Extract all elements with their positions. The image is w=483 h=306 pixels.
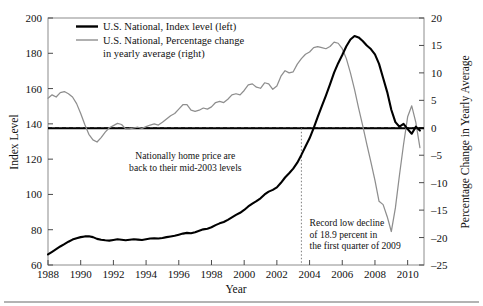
x-tick-label: 1998 xyxy=(200,268,223,280)
y-tick-label-left: 180 xyxy=(26,47,43,59)
y-tick-label-right: –15 xyxy=(430,204,448,216)
y-tick-label-right: –5 xyxy=(430,149,443,161)
x-axis-ticks: 1988199019921994199619982000200220042006… xyxy=(37,260,419,280)
series-percentage-change xyxy=(48,42,420,231)
y-tick-label-right: –20 xyxy=(430,232,448,244)
x-axis-title: Year xyxy=(225,283,246,295)
mid-2003-annotation-line: Nationally home price are xyxy=(135,150,235,161)
y-tick-label-right: 20 xyxy=(431,12,443,24)
figure-container: 6080100120140160180200 –25–20–15–10–5051… xyxy=(0,0,483,306)
y-tick-label-left: 120 xyxy=(26,153,43,165)
x-tick-label: 2006 xyxy=(331,268,354,280)
x-tick-label: 2008 xyxy=(364,268,387,280)
x-tick-label: 2002 xyxy=(266,268,288,280)
legend-label: U.S. National, Index level (left) xyxy=(103,21,237,33)
y-tick-label-right: –10 xyxy=(430,177,448,189)
x-tick-label: 1996 xyxy=(168,268,191,280)
record-low-annotation-line: the first quarter of 2009 xyxy=(310,240,401,251)
y-tick-label-right: 10 xyxy=(431,67,443,79)
y-tick-label-right: 0 xyxy=(431,122,437,134)
chart-legend: U.S. National, Index level (left)U.S. Na… xyxy=(76,21,244,60)
y-tick-label-left: 200 xyxy=(26,12,43,24)
y-axis-left-title: Index Level xyxy=(8,114,20,169)
record-low-annotation-line: of 18.9 percent in xyxy=(310,229,378,240)
y-axis-right-title: Percentage Change in Yearly Average xyxy=(459,55,472,228)
x-tick-label: 2004 xyxy=(299,268,322,280)
x-tick-label: 1990 xyxy=(70,268,93,280)
y-tick-label-left: 160 xyxy=(26,83,43,95)
y-tick-label-right: –25 xyxy=(430,259,448,271)
y-tick-label-right: 5 xyxy=(431,94,437,106)
x-tick-label: 1992 xyxy=(102,268,124,280)
mid-2003-annotation-line: back to their mid-2003 levels xyxy=(129,162,242,173)
record-low-annotation-line: Record low decline xyxy=(310,217,385,228)
legend-label: in yearly average (right) xyxy=(103,48,205,60)
home-price-index-chart: 6080100120140160180200 –25–20–15–10–5051… xyxy=(0,0,483,306)
legend-label: U.S. National, Percentage change xyxy=(103,35,244,46)
y-axis-right-ticks: –25–20–15–10–505101520 xyxy=(419,12,448,271)
x-tick-label: 1994 xyxy=(135,268,158,280)
y-tick-label-left: 80 xyxy=(31,224,43,236)
y-tick-label-left: 100 xyxy=(26,188,43,200)
y-tick-label-left: 140 xyxy=(26,118,43,130)
x-tick-label: 2000 xyxy=(233,268,256,280)
x-tick-label: 2010 xyxy=(397,268,420,280)
y-axis-left-ticks: 6080100120140160180200 xyxy=(26,12,54,271)
y-tick-label-right: 15 xyxy=(431,39,443,51)
x-tick-label: 1988 xyxy=(37,268,60,280)
